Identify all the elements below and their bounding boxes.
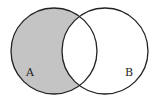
label-b: B [125, 66, 133, 79]
label-a: A [25, 66, 35, 79]
venn-diagram: A B [0, 0, 158, 101]
